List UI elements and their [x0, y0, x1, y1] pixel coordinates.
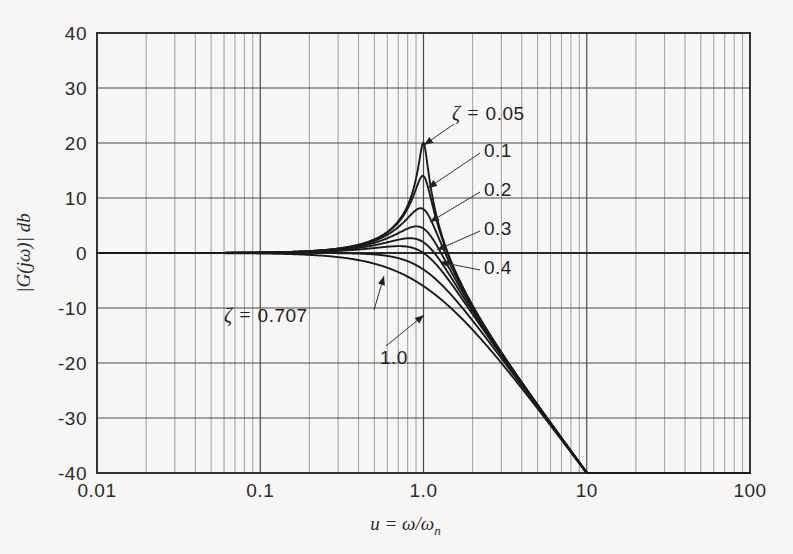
- y-tick-label-1: 30: [65, 78, 87, 99]
- annotation-value: 0.2: [484, 179, 512, 200]
- y-tick-label-6: -20: [58, 353, 87, 374]
- x-axis-title-omega: ω/ω: [402, 513, 434, 534]
- annotation-zeta-005: ζ = 0.05: [452, 102, 525, 125]
- y-tick-label-0: 40: [65, 23, 87, 44]
- figure-background: [0, 0, 793, 554]
- annotation-value: 1.0: [380, 347, 408, 368]
- bode-plot-svg: 0.010.11.010100 403020100-10-20-30-40 ζ …: [0, 0, 793, 554]
- y-tick-label-8: -40: [58, 463, 87, 484]
- annotation-value: 0.707: [258, 305, 308, 326]
- y-tick-label-7: -30: [58, 408, 87, 429]
- y-tick-label-5: -10: [58, 298, 87, 319]
- y-axis-title: |G(jω)| db: [13, 213, 35, 292]
- x-tick-label-3: 10: [576, 480, 598, 501]
- zeta-symbol: ζ =: [452, 102, 486, 125]
- annotation-zeta-10: 1.0: [380, 347, 408, 368]
- bode-magnitude-figure: 0.010.11.010100 403020100-10-20-30-40 ζ …: [0, 0, 793, 554]
- annotation-value: 0.05: [486, 103, 525, 124]
- annotation-value: 0.3: [484, 218, 512, 239]
- x-tick-label-4: 100: [733, 480, 766, 501]
- zeta-symbol: ζ =: [224, 304, 258, 327]
- x-tick-label-2: 1.0: [410, 480, 438, 501]
- annotation-zeta-02: 0.2: [484, 179, 512, 200]
- annotation-zeta-03: 0.3: [484, 218, 512, 239]
- y-tick-label-4: 0: [76, 243, 87, 264]
- x-axis-title-subscript: n: [434, 523, 441, 538]
- y-tick-label-3: 10: [65, 188, 87, 209]
- annotation-zeta-0707: ζ = 0.707: [224, 304, 308, 327]
- x-axis-title-main: u =: [370, 513, 402, 534]
- x-tick-label-1: 0.1: [246, 480, 274, 501]
- annotation-zeta-01: 0.1: [484, 140, 512, 161]
- y-tick-label-2: 20: [65, 133, 87, 154]
- annotation-value: 0.1: [484, 140, 512, 161]
- annotation-zeta-04: 0.4: [484, 257, 512, 278]
- annotation-value: 0.4: [484, 257, 512, 278]
